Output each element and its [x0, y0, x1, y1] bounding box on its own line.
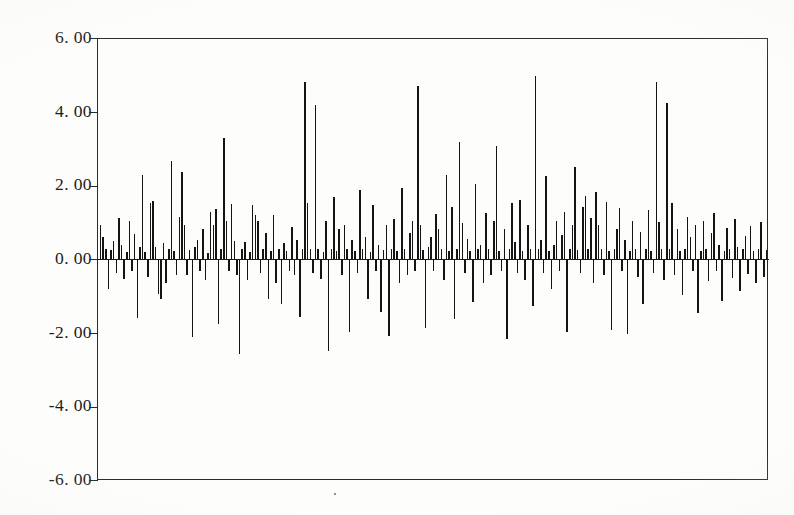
bar — [289, 260, 291, 271]
bar — [430, 237, 432, 260]
scan-artifact-speck — [334, 493, 336, 495]
plot-area — [97, 38, 768, 480]
bar — [760, 222, 762, 260]
bar — [572, 225, 574, 260]
bar — [692, 260, 694, 271]
bar — [372, 205, 374, 260]
bar — [582, 207, 584, 260]
bar — [260, 260, 262, 273]
bar — [375, 260, 377, 271]
y-axis-label-group: 6. 004. 002. 000. 00-2. 00-4. 00-6. 00 — [0, 0, 92, 515]
bar — [493, 221, 495, 260]
bar — [388, 260, 390, 336]
bar — [283, 243, 285, 260]
bar — [553, 245, 555, 260]
bar — [378, 245, 380, 260]
bar — [451, 207, 453, 260]
bar — [637, 260, 639, 277]
bar — [433, 260, 435, 271]
bar — [713, 213, 715, 260]
bar — [763, 260, 765, 277]
bar — [703, 221, 705, 260]
bar — [275, 260, 277, 283]
bar — [137, 260, 139, 318]
bar — [598, 225, 600, 260]
bar — [475, 184, 477, 260]
bar — [228, 260, 230, 271]
bar — [485, 213, 487, 260]
bar — [616, 229, 618, 260]
bar — [304, 82, 306, 260]
bar — [624, 240, 626, 260]
bar — [108, 260, 110, 289]
bar — [100, 225, 102, 260]
bar — [192, 260, 194, 337]
bar — [357, 260, 359, 273]
bar — [407, 260, 409, 275]
bar — [443, 260, 445, 280]
bar — [483, 260, 485, 283]
zero-baseline — [98, 259, 769, 260]
bar — [205, 260, 207, 280]
bar — [186, 260, 188, 275]
bar — [171, 161, 173, 260]
y-axis-tick-mark — [89, 480, 98, 481]
bar — [690, 237, 692, 260]
bar — [281, 260, 283, 304]
y-axis-tick-label: 2. 00 — [8, 177, 92, 195]
bar — [737, 247, 739, 260]
bar — [102, 237, 104, 260]
bar — [365, 237, 367, 260]
bar — [414, 260, 416, 271]
bar — [747, 260, 749, 274]
bar — [218, 260, 220, 324]
bar — [590, 218, 592, 260]
bar — [129, 221, 131, 260]
bar — [420, 225, 422, 260]
bar — [294, 260, 296, 275]
bar — [459, 142, 461, 260]
bar — [333, 197, 335, 260]
bar — [215, 209, 217, 260]
bar — [716, 260, 718, 271]
y-axis-tick-mark — [89, 259, 98, 260]
bar — [223, 138, 225, 260]
bar — [226, 221, 228, 260]
bar — [197, 240, 199, 260]
bar — [514, 242, 516, 260]
bar — [247, 260, 249, 280]
bar — [425, 260, 427, 328]
bar — [359, 190, 361, 260]
bar — [501, 260, 503, 271]
bar — [504, 229, 506, 260]
bar — [564, 212, 566, 260]
bar — [160, 260, 162, 299]
bar — [147, 260, 149, 277]
bar — [551, 260, 553, 289]
bar — [755, 260, 757, 283]
bar — [606, 202, 608, 260]
bar — [658, 222, 660, 260]
bar — [671, 203, 673, 260]
bar — [682, 260, 684, 295]
bar — [711, 233, 713, 260]
bar — [545, 176, 547, 260]
bar — [595, 192, 597, 260]
bar — [480, 245, 482, 260]
bar — [393, 219, 395, 260]
bar — [351, 240, 353, 260]
y-axis-tick-mark — [89, 186, 98, 187]
bar — [123, 260, 125, 279]
y-axis-tick-label: 6. 00 — [8, 29, 92, 47]
bar — [131, 260, 133, 271]
bar — [559, 260, 561, 271]
bar — [627, 260, 629, 334]
bar — [252, 205, 254, 260]
bar — [179, 217, 181, 260]
bar — [150, 203, 152, 260]
bar — [708, 260, 710, 281]
bar — [113, 241, 115, 260]
bar — [619, 208, 621, 260]
bar — [648, 210, 650, 260]
y-axis-tick-mark — [89, 407, 98, 408]
